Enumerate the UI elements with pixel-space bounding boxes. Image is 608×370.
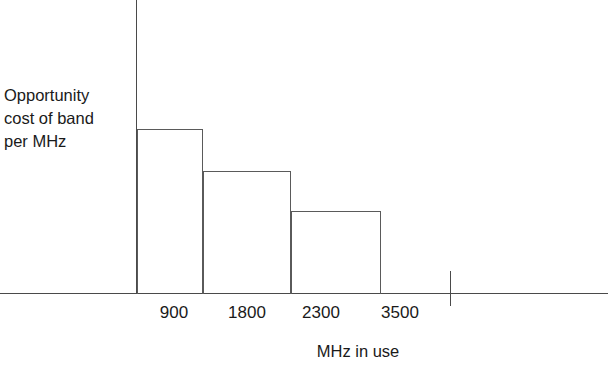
bar-900 xyxy=(137,129,203,294)
x-tick-label-2300: 2300 xyxy=(302,303,340,323)
axis-tick-3500 xyxy=(450,271,451,306)
x-tick-label-900: 900 xyxy=(160,303,188,323)
bar-1800 xyxy=(203,171,291,294)
bar-chart-figure: Opportunity cost of band per MHz 900 180… xyxy=(0,0,608,370)
bar-2300 xyxy=(291,211,381,294)
x-tick-label-1800: 1800 xyxy=(228,303,266,323)
x-tick-label-3500: 3500 xyxy=(381,303,419,323)
x-axis-title: MHz in use xyxy=(317,341,400,361)
y-axis-title: Opportunity cost of band per MHz xyxy=(4,84,132,153)
